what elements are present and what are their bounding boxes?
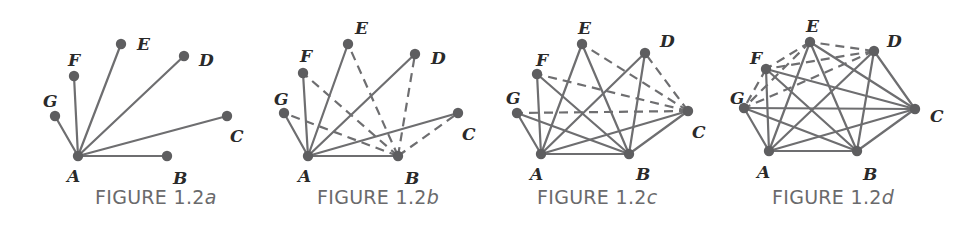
edge-b-d-dashed: [398, 54, 415, 156]
vertex-label-d: D: [886, 31, 902, 51]
caption-suffix: b: [427, 186, 439, 208]
caption-suffix: c: [647, 186, 658, 208]
vertex-f: [298, 68, 308, 78]
edge-a-f: [303, 73, 308, 156]
figure-1-2c: ABCDEFGFIGURE 1.2c: [506, 18, 706, 208]
figure-strip: ABCDEFGFIGURE 1.2aABCDEFGFIGURE 1.2bABCD…: [0, 0, 978, 228]
vertex-f: [532, 69, 542, 79]
vertex-label-e: E: [136, 34, 151, 54]
caption-suffix: d: [882, 186, 895, 208]
edge-a-f: [537, 74, 541, 154]
vertex-label-e: E: [354, 18, 369, 38]
figure-1-2d: ABCDEFGFIGURE 1.2d: [730, 16, 944, 208]
vertex-label-e: E: [805, 16, 820, 36]
vertex-label-g: G: [43, 91, 58, 111]
figure-caption: FIGURE 1.2a: [95, 186, 217, 208]
edge-c-g-dashed: [517, 111, 688, 113]
vertex-e: [577, 39, 587, 49]
vertex-label-g: G: [730, 88, 745, 108]
caption-suffix: a: [205, 186, 217, 208]
vertex-g: [512, 108, 522, 118]
vertex-label-f: F: [299, 46, 314, 66]
edge-c-e-dashed: [582, 44, 688, 111]
vertex-label-a: A: [755, 162, 770, 182]
edge-c-e: [810, 42, 915, 109]
edge-a-g: [55, 116, 78, 156]
vertex-c: [910, 104, 920, 114]
vertex-label-c: C: [230, 126, 244, 146]
vertex-label-c: C: [462, 124, 476, 144]
vertex-label-g: G: [274, 89, 289, 109]
figure-1-2b: ABCDEFGFIGURE 1.2b: [274, 18, 476, 208]
vertex-d: [869, 46, 879, 56]
vertex-e: [805, 37, 815, 47]
vertex-label-d: D: [430, 48, 446, 68]
vertex-a: [764, 146, 774, 156]
vertex-label-b: B: [172, 168, 187, 188]
vertex-d: [410, 49, 420, 59]
edge-b-c: [857, 109, 915, 151]
vertex-b: [852, 146, 862, 156]
vertex-f: [69, 71, 79, 81]
vertex-c: [683, 106, 693, 116]
vertex-e: [116, 39, 126, 49]
vertex-f: [761, 64, 771, 74]
edge-b-c-dashed: [398, 113, 458, 156]
edge-a-e: [308, 44, 348, 156]
edge-a-g: [517, 113, 541, 154]
vertex-label-f: F: [67, 50, 82, 70]
caption-prefix: FIGURE 1.2: [537, 186, 647, 208]
edge-a-f: [766, 69, 769, 151]
vertex-label-f: F: [535, 50, 550, 70]
vertex-d: [179, 51, 189, 61]
caption-prefix: FIGURE 1.2: [772, 186, 882, 208]
figure-1-2a: ABCDEFGFIGURE 1.2a: [43, 34, 244, 208]
vertex-b: [393, 151, 403, 161]
vertex-d: [640, 48, 650, 58]
figure-caption: FIGURE 1.2c: [537, 186, 658, 208]
vertex-a: [303, 151, 313, 161]
vertex-label-b: B: [635, 164, 650, 184]
edge-b-e: [582, 44, 629, 154]
vertex-c: [222, 111, 232, 121]
vertex-b: [624, 149, 634, 159]
vertex-label-c: C: [692, 122, 706, 142]
edge-a-f: [74, 76, 78, 156]
vertex-e: [343, 39, 353, 49]
vertex-label-d: D: [659, 31, 675, 51]
vertex-c: [453, 108, 463, 118]
edge-d-e-dashed: [810, 42, 874, 51]
edge-a-e: [769, 42, 810, 151]
vertex-g: [279, 108, 289, 118]
vertex-label-b: B: [862, 164, 877, 184]
vertex-label-f: F: [749, 48, 764, 68]
caption-prefix: FIGURE 1.2: [317, 186, 427, 208]
vertex-g: [50, 111, 60, 121]
vertex-label-a: A: [528, 164, 543, 184]
caption-prefix: FIGURE 1.2: [95, 186, 205, 208]
vertex-label-b: B: [404, 168, 419, 188]
vertex-label-c: C: [930, 106, 944, 126]
edge-b-d: [629, 53, 645, 154]
edge-b-c: [629, 111, 688, 154]
vertex-b: [162, 151, 172, 161]
vertex-a: [73, 151, 83, 161]
vertex-a: [536, 149, 546, 159]
figure-caption: FIGURE 1.2b: [317, 186, 439, 208]
vertex-label-a: A: [65, 166, 80, 186]
vertex-label-a: A: [296, 166, 311, 186]
figure-caption: FIGURE 1.2d: [772, 186, 895, 208]
vertex-label-e: E: [577, 18, 592, 38]
vertex-label-d: D: [198, 50, 214, 70]
edge-a-g: [744, 108, 769, 151]
edge-a-g: [284, 113, 308, 156]
edge-c-g: [744, 108, 915, 109]
edge-a-e: [78, 44, 121, 156]
vertex-label-g: G: [506, 88, 521, 108]
